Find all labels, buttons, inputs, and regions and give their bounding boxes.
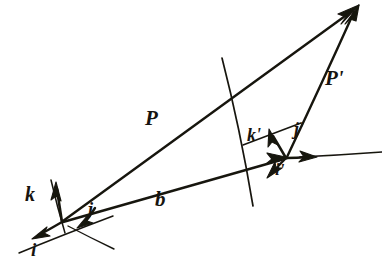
label-vector-j: j [88, 200, 93, 218]
label-vector-i-prime: i' [275, 161, 284, 178]
label-vector-k: k [25, 184, 35, 204]
vector-i [32, 222, 62, 239]
vector-j-prime [286, 151, 317, 162]
label-vector-k-prime: k' [247, 126, 261, 144]
axis-line-j-extension [68, 226, 114, 249]
label-vector-P-prime: P' [325, 68, 344, 89]
vector-P [63, 5, 359, 221]
label-vector-b: b [155, 189, 166, 210]
vector-diagram-canvas [0, 0, 382, 273]
vector-diagram-figure: P P' b k i j k' j' i' [0, 0, 382, 273]
label-vector-j-prime: j' [294, 120, 304, 138]
label-vector-i: i [31, 240, 36, 259]
vector-i-arrowhead [32, 227, 50, 239]
vector-b-shaft [63, 160, 281, 222]
vector-P-shaft [63, 11, 352, 221]
label-vector-P: P [145, 108, 158, 129]
vector-b [63, 153, 290, 222]
